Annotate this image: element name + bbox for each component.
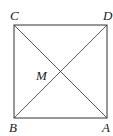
center-label-m: M (35, 68, 48, 83)
square-diagram: C D B A M (0, 0, 113, 136)
vertex-label-d: D (102, 8, 113, 23)
vertex-label-b: B (9, 120, 17, 135)
vertex-label-c: C (10, 8, 19, 23)
vertex-label-a: A (101, 120, 110, 135)
